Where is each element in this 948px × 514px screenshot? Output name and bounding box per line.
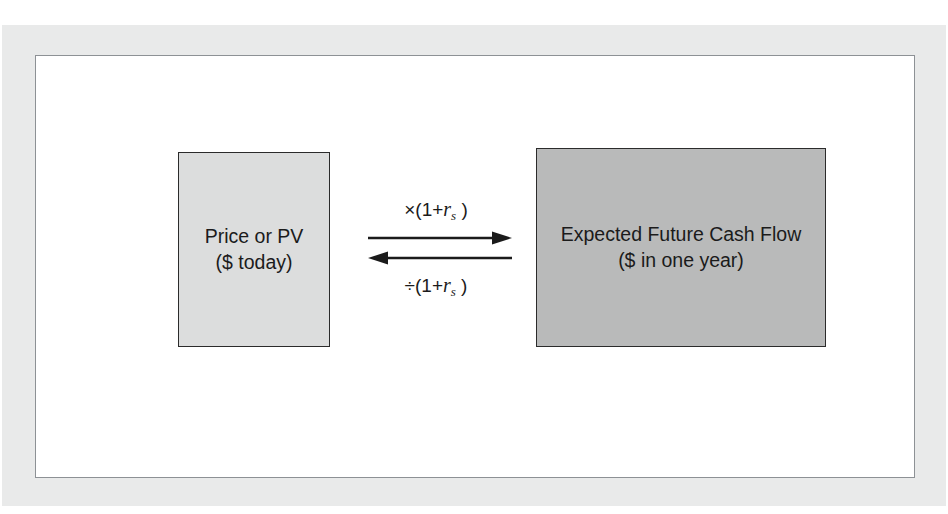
arrow-left-discount <box>368 252 512 265</box>
node-price-or-pv: Price or PV ($ today) <box>178 152 330 347</box>
node-expected-future-cash-flow-line2: ($ in one year) <box>618 248 744 274</box>
formula-compound-variable: r <box>443 198 451 220</box>
relation-group: ×(1+rs ) ÷(1+rs ) <box>360 198 512 306</box>
arrow-right-compound <box>368 232 512 245</box>
formula-discount-suffix: ) <box>456 275 468 296</box>
formula-discount-variable: r <box>443 274 451 296</box>
diagram-canvas: Price or PV ($ today) Expected Future Ca… <box>0 0 948 514</box>
formula-discount-operator: ÷ <box>405 275 415 296</box>
formula-compound-label: ×(1+rs ) <box>360 198 512 224</box>
figure-container: Price or PV ($ today) Expected Future Ca… <box>0 0 948 514</box>
node-price-or-pv-line1: Price or PV <box>205 224 304 250</box>
formula-compound-operator: × <box>404 199 415 220</box>
node-expected-future-cash-flow: Expected Future Cash Flow ($ in one year… <box>536 148 826 347</box>
node-expected-future-cash-flow-line1: Expected Future Cash Flow <box>561 222 802 248</box>
node-price-or-pv-line2: ($ today) <box>216 250 293 276</box>
relation-arrows <box>368 228 512 272</box>
formula-compound-prefix: (1+ <box>415 199 443 220</box>
formula-discount-prefix: (1+ <box>415 275 443 296</box>
formula-compound-suffix: ) <box>456 199 468 220</box>
formula-discount-label: ÷(1+rs ) <box>360 274 512 300</box>
